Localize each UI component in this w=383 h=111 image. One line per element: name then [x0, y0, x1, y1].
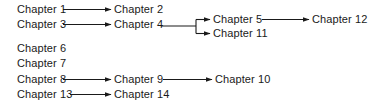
node-chapter-5: Chapter 5: [213, 14, 262, 25]
node-chapter-8: Chapter 8: [17, 74, 66, 85]
node-chapter-13: Chapter 13: [17, 89, 72, 100]
node-chapter-9: Chapter 9: [114, 74, 163, 85]
node-chapter-11: Chapter 11: [213, 28, 268, 39]
node-chapter-4: Chapter 4: [114, 19, 163, 30]
node-chapter-2: Chapter 2: [114, 4, 163, 15]
node-chapter-10: Chapter 10: [215, 74, 270, 85]
node-chapter-1: Chapter 1: [17, 4, 66, 15]
node-chapter-14: Chapter 14: [114, 89, 169, 100]
node-chapter-7: Chapter 7: [17, 58, 66, 69]
node-chapter-12: Chapter 12: [312, 14, 367, 25]
node-chapter-6: Chapter 6: [17, 43, 66, 54]
chapter-dependency-diagram: Chapter 1 Chapter 3 Chapter 6 Chapter 7 …: [0, 0, 383, 111]
node-chapter-3: Chapter 3: [17, 19, 66, 30]
